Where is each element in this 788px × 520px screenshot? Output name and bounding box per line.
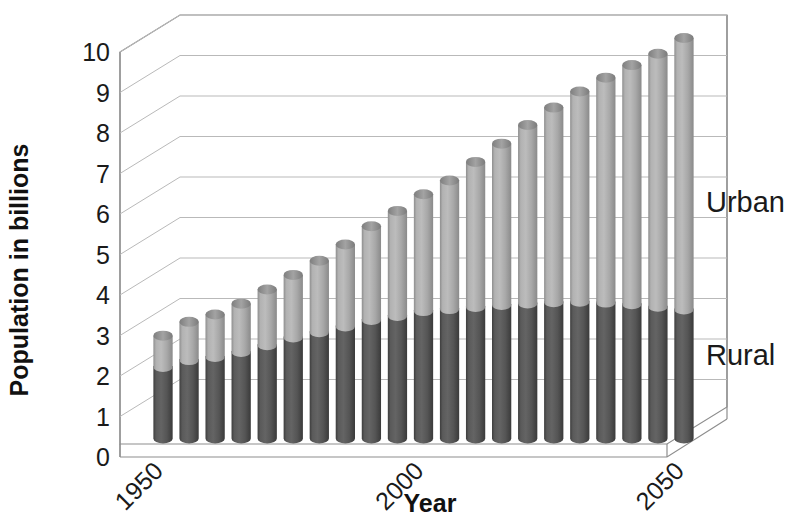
bar-segment-urban [570,91,589,306]
bar-top-cap [362,221,381,231]
bar-segment-rural [570,301,589,444]
bar-segment-urban [258,289,277,350]
bar-segment-rural [674,308,693,443]
bar-stack [388,206,407,444]
bar-segment-rural [179,359,198,443]
bar-segment-urban [440,181,459,315]
bar-segment-urban [284,275,303,343]
y-axis-tick-label: 6 [96,200,110,228]
bar-top-cap [648,49,667,59]
bar-top-cap [518,120,537,130]
y-axis-tick-label: 10 [82,38,110,66]
y-axis-tick-label: 0 [96,443,110,471]
bar-stack [622,60,641,443]
bar-top-cap [570,86,589,96]
bar-stack [648,49,667,444]
bar-segment-rural [414,310,433,443]
bar-top-cap [284,270,303,280]
bar-stack [440,176,459,444]
bar-segment-rural [440,308,459,443]
bar-segment-urban [232,304,251,357]
bar-segment-rural [596,302,615,444]
y-axis-title: Population in billions [5,144,33,397]
bar-segment-urban [596,78,615,308]
bar-segment-urban [336,245,355,332]
y-axis-tick-label: 5 [96,241,110,269]
bar-segment-rural [648,306,667,444]
bar-segment-urban [179,322,198,365]
bar-stack [544,103,563,444]
bar-stack [596,73,615,444]
bar-stack [205,310,224,444]
bar-segment-urban [674,38,693,315]
y-axis-tick-label: 1 [96,403,110,431]
gridline [120,15,727,52]
legend-label-urban: Urban [706,186,785,218]
bar-segment-urban [414,194,433,316]
y-axis-tick-label: 9 [96,79,110,107]
bar-stack [674,33,693,444]
x-axis-tick-label: 2050 [630,456,689,515]
bar-segment-urban [648,54,667,312]
bar-top-cap [414,189,433,199]
bar-segment-rural [518,302,537,443]
bar-segment-rural [466,306,485,443]
bar-stack [336,240,355,444]
bar-segment-rural [258,344,277,443]
bar-segment-rural [622,303,641,443]
bar-segment-urban [492,144,511,310]
chart-svg: 012345678910 195020002050 Population in … [0,0,788,520]
bar-top-cap [153,331,172,341]
bar-stack [570,86,589,443]
y-axis-tick-label: 3 [96,322,110,350]
y-axis-tick-label: 7 [96,160,110,188]
bar-stack [258,284,277,443]
bar-top-cap [336,240,355,250]
bar-segment-urban [518,125,537,308]
bar-top-cap [205,310,224,320]
bar-top-cap [232,299,251,309]
y-axis-tick-label: 4 [96,281,110,309]
bar-segment-rural [310,331,329,443]
bar-top-cap [596,73,615,83]
bar-top-cap [492,139,511,149]
bar-segment-rural [336,326,355,444]
bar-stack [466,157,485,444]
x-axis-title: Year [404,489,457,517]
bar-top-cap [440,176,459,186]
x-axis-tick-labels: 195020002050 [109,456,689,515]
bar-top-cap [310,256,329,266]
bar-stack [310,256,329,444]
bar-segment-urban [153,336,172,372]
legend-label-rural: Rural [706,339,775,371]
bars-group [153,33,693,444]
bar-stack [518,120,537,443]
bar-segment-rural [388,315,407,444]
bar-stack [179,317,198,444]
bar-segment-rural [284,336,303,443]
bar-top-cap [258,284,277,294]
bar-stack [232,299,251,444]
bar-stack [414,189,433,443]
population-stacked-bar-chart: 012345678910 195020002050 Population in … [0,0,788,520]
bar-segment-rural [362,319,381,443]
bar-segment-rural [492,304,511,443]
bar-segment-urban [544,108,563,308]
bar-segment-urban [466,162,485,312]
bar-top-cap [179,317,198,327]
bar-top-cap [544,103,563,113]
bar-segment-urban [362,226,381,325]
bar-segment-rural [153,366,172,443]
bar-segment-rural [544,301,563,443]
bar-segment-urban [205,315,224,362]
bar-top-cap [674,33,693,43]
bar-segment-urban [310,261,329,337]
y-axis-tick-label: 2 [96,362,110,390]
bar-top-cap [388,206,407,216]
x-axis-tick-label: 1950 [109,456,168,515]
y-axis-tick-label: 8 [96,119,110,147]
bar-stack [362,221,381,443]
bar-top-cap [466,157,485,167]
bar-stack [153,331,172,444]
bar-stack [284,270,303,444]
